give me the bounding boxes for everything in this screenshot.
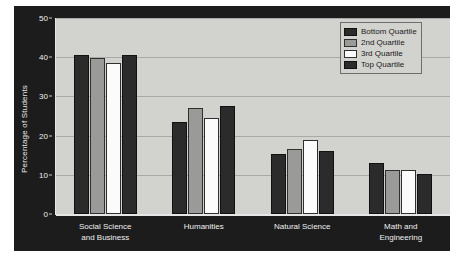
bar — [369, 163, 384, 214]
legend-item: Top Quartile — [344, 59, 417, 70]
y-axis-tick-mark — [49, 214, 52, 215]
bar — [385, 170, 400, 214]
legend-swatch — [344, 28, 357, 36]
bar — [401, 170, 416, 214]
legend-label: 3rd Quartile — [361, 49, 403, 58]
bar — [271, 154, 286, 214]
bar — [172, 122, 187, 214]
bar — [303, 140, 318, 214]
bar — [106, 63, 121, 214]
x-axis-category-label-line: Engineering — [352, 232, 451, 243]
legend-swatch — [344, 39, 357, 47]
legend-item: 3rd Quartile — [344, 48, 417, 59]
legend-label: Bottom Quartile — [361, 27, 417, 36]
y-axis-tick-label: 0 — [44, 210, 48, 219]
y-axis-tick-mark — [49, 57, 52, 58]
y-axis-tick-mark — [49, 18, 52, 19]
x-axis-category-label: Humanities — [155, 219, 254, 249]
x-axis-tick-labels: Social Scienceand BusinessHumanitiesNatu… — [56, 219, 450, 249]
bar — [204, 118, 219, 214]
x-axis-category-label: Math andEngineering — [352, 219, 451, 249]
bar — [319, 151, 334, 214]
bar — [220, 106, 235, 214]
bar — [74, 55, 89, 214]
chart-figure: Percentage of Students 01020304050 Socia… — [0, 0, 462, 264]
legend-swatch — [344, 61, 357, 69]
x-axis-line — [56, 214, 450, 216]
x-axis-category-label-line: Math and — [352, 221, 451, 232]
legend-label: Top Quartile — [361, 60, 404, 69]
bar — [188, 108, 203, 214]
legend-swatch — [344, 50, 357, 58]
y-axis-tick-mark — [49, 96, 52, 97]
y-axis-tick-mark — [49, 174, 52, 175]
legend-label: 2nd Quartile — [361, 38, 405, 47]
y-axis-tick-label: 10 — [39, 170, 48, 179]
x-axis-category-label-line: and Business — [56, 232, 155, 243]
bar — [90, 58, 105, 214]
legend-item: Bottom Quartile — [344, 26, 417, 37]
chart-legend: Bottom Quartile2nd Quartile3rd QuartileT… — [340, 22, 422, 74]
x-axis-category-label: Social Scienceand Business — [56, 219, 155, 249]
y-axis-tick-label: 20 — [39, 131, 48, 140]
bar — [287, 149, 302, 214]
legend-item: 2nd Quartile — [344, 37, 417, 48]
y-axis-tick-label: 40 — [39, 53, 48, 62]
bar — [122, 55, 137, 214]
bar — [417, 174, 432, 214]
y-axis-tick-labels: 01020304050 — [26, 18, 52, 214]
x-axis-category-label-line: Social Science — [56, 221, 155, 232]
x-axis-category-label-line: Humanities — [155, 221, 254, 232]
y-axis-tick-label: 30 — [39, 92, 48, 101]
x-axis-category-label: Natural Science — [253, 219, 352, 249]
gridline — [56, 18, 450, 19]
y-axis-tick-label: 50 — [39, 14, 48, 23]
x-axis-category-label-line: Natural Science — [253, 221, 352, 232]
y-axis-tick-mark — [49, 135, 52, 136]
